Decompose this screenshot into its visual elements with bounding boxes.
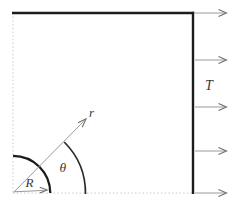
- radial-coordinate-label: r: [89, 105, 95, 120]
- hole-radius-arrow-shaft: [14, 190, 45, 191]
- theta-arc: [64, 142, 85, 194]
- plate-diagram-canvas: T r θ R: [0, 0, 235, 210]
- angle-label: θ: [60, 160, 67, 175]
- tension-label: T: [205, 78, 214, 93]
- plate-diagram: T r θ R: [0, 0, 235, 210]
- hole-radius-label: R: [25, 175, 34, 190]
- tension-arrows: [195, 10, 227, 197]
